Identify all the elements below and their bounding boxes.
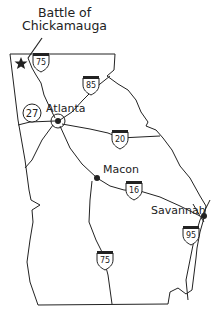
interstate-75-south-shield-icon: 75 [97,251,113,270]
battle-star-icon [15,57,28,69]
interstate-85-shield-icon: 85 [83,76,99,95]
svg-text:95: 95 [186,231,196,240]
interstate-16-shield-icon: 16 [126,181,142,200]
svg-text:85: 85 [86,81,96,90]
svg-text:27: 27 [26,108,39,119]
svg-text:20: 20 [115,135,125,144]
svg-text:75: 75 [100,256,110,265]
svg-text:16: 16 [129,186,139,195]
interstate-75-north-shield-icon: 75 [33,53,49,72]
city-label-macon: Macon [103,164,139,175]
macon-dot-icon [94,175,100,181]
city-label-savannah: Savannah [151,205,206,216]
georgia-map: 75 85 20 16 95 75 27 [0,0,223,320]
svg-text:75: 75 [36,58,46,67]
map-title: Battle of Chickamauga [22,6,107,32]
atlanta-dot-icon [55,118,61,124]
title-line-2: Chickamauga [22,19,107,32]
interstate-95-shield-icon: 95 [183,226,199,245]
state-route-27-shield-icon: 27 [23,104,41,122]
interstate-20-shield-icon: 20 [112,130,128,149]
city-label-atlanta: Atlanta [46,103,85,114]
